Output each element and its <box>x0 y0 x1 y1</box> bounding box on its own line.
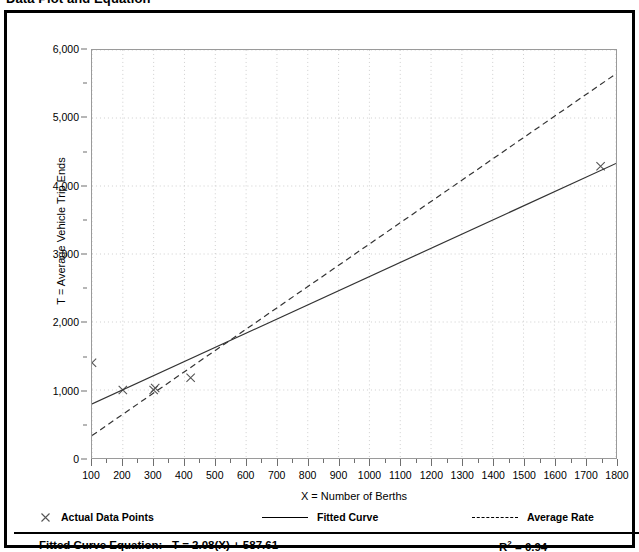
x-marker-icon <box>39 512 52 523</box>
x-axis-tick-mark <box>308 459 309 466</box>
x-axis-tick-label: 100 <box>82 469 100 481</box>
x-axis-tick-mark <box>91 459 92 466</box>
x-axis-tick-label: 1500 <box>512 469 535 481</box>
x-axis-tick-label: 500 <box>206 469 224 481</box>
x-axis-tick-label: 200 <box>113 469 131 481</box>
legend-item-average-rate: Average Rate <box>472 511 594 523</box>
x-axis-minor-tick <box>354 459 355 463</box>
x-axis-tick-mark <box>524 459 525 466</box>
x-axis-tick-mark <box>617 459 618 466</box>
y-axis-tick-label: 5,000 <box>53 111 79 123</box>
x-axis-minor-tick <box>137 459 138 463</box>
x-axis-minor-tick <box>230 459 231 463</box>
equation-formula: T = 2.08(X) + 587.61 <box>172 539 278 551</box>
chart-plot-area <box>91 49 617 459</box>
y-axis-tick-mark <box>81 117 87 118</box>
equation-divider <box>14 532 639 534</box>
x-axis-title: X = Number of Berths <box>91 490 617 502</box>
solid-line-icon <box>262 512 308 523</box>
chart-data-layer <box>92 50 616 458</box>
x-axis-tick-mark <box>339 459 340 466</box>
x-axis-minor-tick <box>106 459 107 463</box>
x-axis-minor-tick <box>385 459 386 463</box>
x-axis-tick-mark <box>555 459 556 466</box>
legend-item-actual-data-points: Actual Data Points <box>39 511 154 523</box>
x-axis-tick-mark <box>215 459 216 466</box>
x-axis-tick-label: 800 <box>299 469 317 481</box>
x-axis-tick-label: 1700 <box>574 469 597 481</box>
x-axis-tick-label: 700 <box>268 469 286 481</box>
y-axis-tick-mark <box>81 185 87 186</box>
x-axis-minor-tick <box>261 459 262 463</box>
y-axis-minor-tick <box>83 83 87 84</box>
r-squared-value: R2 = 0.94 <box>499 539 547 552</box>
x-axis-tick-mark <box>462 459 463 466</box>
x-axis-minor-tick <box>447 459 448 463</box>
x-axis-tick-label: 1800 <box>605 469 628 481</box>
x-axis-tick-label: 1200 <box>420 469 443 481</box>
x-axis-tick-mark <box>431 459 432 466</box>
x-axis-minor-tick <box>168 459 169 463</box>
y-axis-tick-label: 6,000 <box>53 43 79 55</box>
x-axis-tick-label: 600 <box>237 469 255 481</box>
y-axis-tick-mark <box>81 254 87 255</box>
y-axis-minor-tick <box>83 356 87 357</box>
x-axis-tick-mark <box>153 459 154 466</box>
y-axis-tick-mark <box>81 322 87 323</box>
page-title: Data Plot and Equation <box>6 0 150 6</box>
y-axis-tick-label: 2,000 <box>53 316 79 328</box>
r-squared-number: = 0.94 <box>515 541 547 552</box>
x-axis-tick-label: 900 <box>330 469 348 481</box>
x-axis-minor-tick <box>602 459 603 463</box>
x-axis-minor-tick <box>509 459 510 463</box>
y-axis-minor-tick <box>83 424 87 425</box>
x-axis-minor-tick <box>571 459 572 463</box>
legend-label-average-rate: Average Rate <box>527 511 594 523</box>
chart-legend: Actual Data Points Fitted Curve Average … <box>17 511 632 531</box>
y-axis-minor-tick <box>83 288 87 289</box>
legend-label-actual-data-points: Actual Data Points <box>61 511 154 523</box>
y-axis-minor-tick <box>83 219 87 220</box>
x-axis-tick-label: 1400 <box>482 469 505 481</box>
y-axis-tick-mark <box>81 459 87 460</box>
x-axis-minor-tick <box>292 459 293 463</box>
x-axis-tick-label: 1600 <box>543 469 566 481</box>
r-squared-exponent: 2 <box>507 539 511 548</box>
x-axis-minor-tick <box>416 459 417 463</box>
x-axis-tick-mark <box>277 459 278 466</box>
y-axis-tick-label: 4,000 <box>53 180 79 192</box>
y-axis-minor-tick <box>83 151 87 152</box>
x-axis-tick-mark <box>400 459 401 466</box>
figure-frame: T = Average Vehicle Trip Ends 01,0002,00… <box>4 10 635 548</box>
x-axis-tick-label: 400 <box>175 469 193 481</box>
legend-label-fitted-curve: Fitted Curve <box>317 511 378 523</box>
dashed-line-icon <box>472 512 518 523</box>
x-axis-minor-tick <box>478 459 479 463</box>
y-axis-tick-mark <box>81 49 87 50</box>
y-axis-labels: 01,0002,0003,0004,0005,0006,000 <box>35 49 87 459</box>
y-axis-tick-label: 1,000 <box>53 385 79 397</box>
y-axis-tick-label: 3,000 <box>53 248 79 260</box>
x-axis-labels: 1002003004005006007008009001000110012001… <box>91 469 617 485</box>
equation-bar: Fitted Curve Equation: T = 2.08(X) + 587… <box>17 537 632 552</box>
x-axis-tick-label: 1100 <box>389 469 412 481</box>
x-axis-tick-label: 300 <box>144 469 162 481</box>
x-axis-tick-mark <box>369 459 370 466</box>
x-axis-tick-mark <box>586 459 587 466</box>
x-axis-tick-mark <box>493 459 494 466</box>
x-axis-tick-mark <box>246 459 247 466</box>
fitted-curve-equation: Fitted Curve Equation: T = 2.08(X) + 587… <box>39 539 278 551</box>
x-axis-minor-tick <box>323 459 324 463</box>
x-axis-minor-tick <box>540 459 541 463</box>
x-axis-ticks <box>91 459 617 469</box>
x-axis-tick-mark <box>184 459 185 466</box>
y-axis-tick-label: 0 <box>73 453 79 465</box>
equation-label: Fitted Curve Equation: <box>39 539 162 551</box>
y-axis-tick-mark <box>81 390 87 391</box>
x-axis-tick-mark <box>122 459 123 466</box>
x-axis-minor-tick <box>199 459 200 463</box>
x-axis-tick-label: 1300 <box>451 469 474 481</box>
legend-item-fitted-curve: Fitted Curve <box>262 511 378 523</box>
x-axis-tick-label: 1000 <box>358 469 381 481</box>
